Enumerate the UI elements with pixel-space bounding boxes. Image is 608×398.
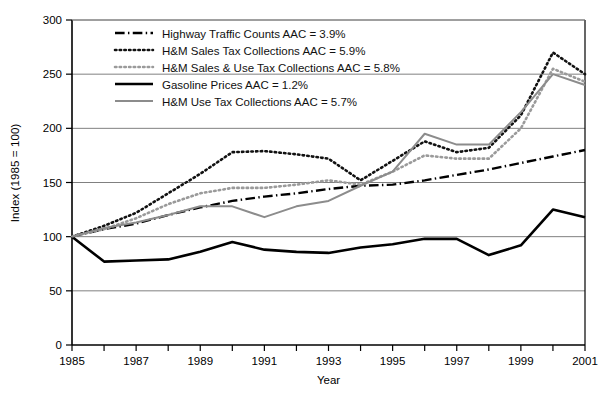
y-axis-title-wrap: Index (1985 = 100) [0,0,30,345]
x-tick-label-2001: 2001 [572,355,598,367]
legend-label-1: H&M Sales Tax Collections AAC = 5.9% [162,45,365,57]
series-line-3 [72,210,585,262]
series-line-0 [72,150,585,237]
y-tick-label-100: 100 [43,231,62,243]
x-tick-label-1987: 1987 [123,355,149,367]
line-chart: Index (1985 = 100) 050100150200250300198… [0,0,608,398]
y-tick-label-250: 250 [43,68,62,80]
x-tick-label-1985: 1985 [59,355,85,367]
plot-area: 0501001502002503001985198719891991199319… [0,0,608,398]
legend-label-0: Highway Traffic Counts AAC = 3.9% [162,28,346,40]
x-tick-label-1999: 1999 [508,355,534,367]
legend-label-4: H&M Use Tax Collections AAC = 5.7% [162,96,357,108]
y-tick-label-300: 300 [43,14,62,26]
x-tick-label-1993: 1993 [316,355,342,367]
x-tick-label-1995: 1995 [380,355,406,367]
x-tick-label-1997: 1997 [444,355,470,367]
y-tick-label-50: 50 [49,285,62,297]
y-tick-label-0: 0 [56,339,62,351]
y-tick-label-200: 200 [43,122,62,134]
legend-label-2: H&M Sales & Use Tax Collections AAC = 5.… [162,62,400,74]
series-line-1 [72,53,585,237]
y-axis-title: Index (1985 = 100) [9,123,21,222]
y-tick-label-150: 150 [43,177,62,189]
x-tick-label-1989: 1989 [187,355,213,367]
x-tick-label-1991: 1991 [252,355,278,367]
legend-label-3: Gasoline Prices AAC = 1.2% [162,79,308,91]
x-axis-title: Year [72,374,585,386]
series-line-2 [72,69,585,237]
